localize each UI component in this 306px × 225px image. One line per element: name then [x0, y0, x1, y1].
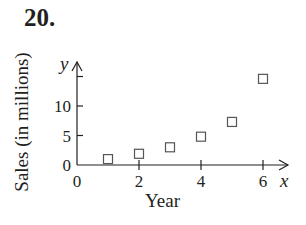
data-point-marker	[228, 117, 237, 126]
svg-text:0: 0	[73, 172, 82, 191]
data-point-marker	[135, 149, 144, 158]
data-point-marker	[104, 155, 113, 164]
scatter-plot: 02460510 y x	[0, 0, 306, 225]
svg-text:10: 10	[54, 97, 71, 116]
x-variable-label: x	[279, 170, 289, 191]
data-points	[104, 74, 268, 163]
data-point-marker	[166, 143, 175, 152]
data-point-marker	[197, 132, 206, 141]
y-variable-label: y	[58, 53, 69, 74]
svg-text:6: 6	[259, 172, 268, 191]
axis-ticks: 02460510	[54, 77, 267, 192]
svg-text:2: 2	[135, 172, 144, 191]
svg-text:0: 0	[63, 156, 72, 175]
data-point-marker	[259, 74, 268, 83]
svg-text:4: 4	[197, 172, 206, 191]
svg-text:5: 5	[63, 127, 72, 146]
